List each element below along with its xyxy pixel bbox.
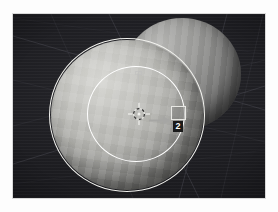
object-sphere-selected[interactable] — [51, 40, 203, 190]
sphere-facet-shading — [51, 40, 203, 190]
3d-viewport[interactable]: 2 — [12, 13, 266, 199]
screenshot-root: 2 — [0, 0, 278, 212]
